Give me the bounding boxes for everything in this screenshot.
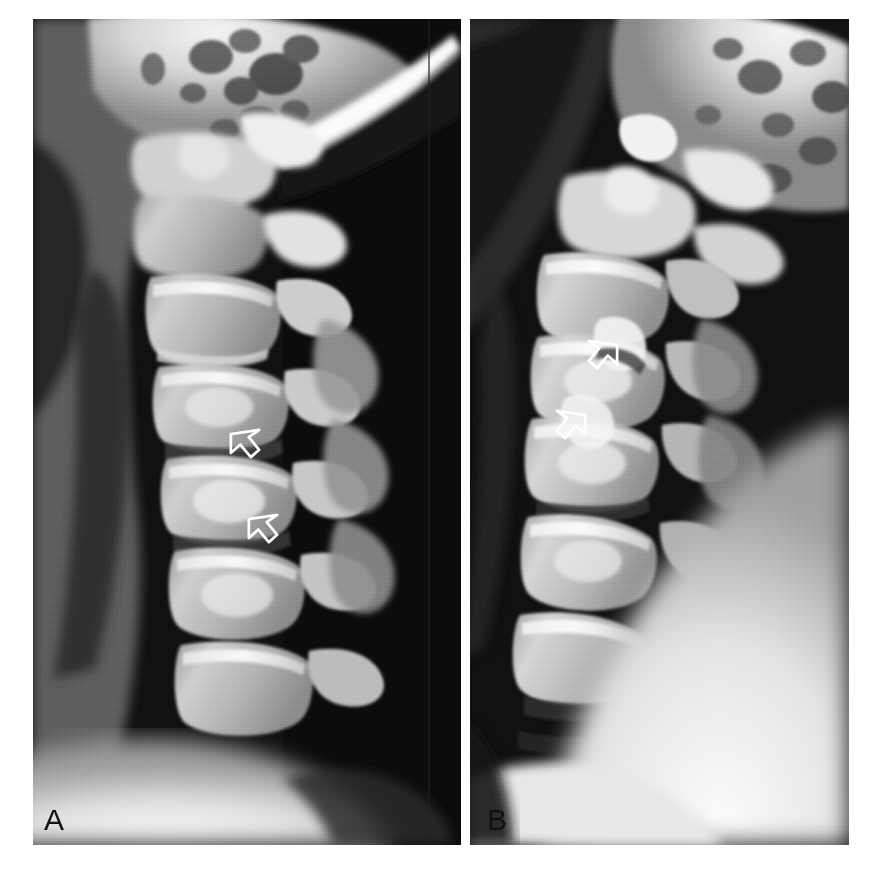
xray-image-b <box>470 19 849 845</box>
radiograph-panel-a[interactable] <box>33 19 461 845</box>
xray-image-a <box>33 19 461 845</box>
panel-label-a: A <box>44 805 64 835</box>
radiograph-panel-b[interactable] <box>470 19 849 845</box>
radiograph-figure: A <box>0 0 869 885</box>
panel-label-b: B <box>487 805 507 835</box>
